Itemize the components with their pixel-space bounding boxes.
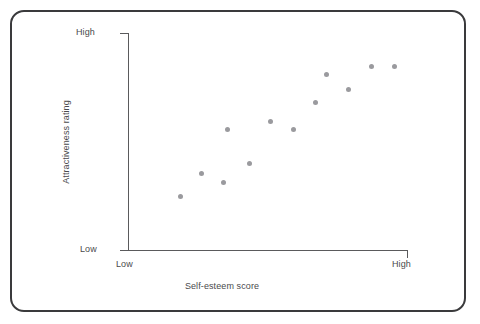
y-axis-low-label: Low [80,244,97,254]
plot-area: High Low Low High Attractiveness rating … [0,0,480,324]
x-axis-high-label: High [392,259,411,269]
scatter-plot-figure: High Low Low High Attractiveness rating … [0,0,480,324]
scatter-point [178,194,183,199]
scatter-point [247,161,252,166]
x-axis-line [128,250,408,251]
y-axis-high-label: High [76,27,95,37]
y-axis-title: Attractiveness rating [61,100,71,184]
y-axis-high-tick [120,33,129,34]
y-axis-line [128,33,129,251]
scatter-point [225,127,230,132]
scatter-point [392,64,397,69]
x-axis-high-tick [407,250,408,258]
scatter-point [291,127,296,132]
scatter-point [199,171,204,176]
scatter-point [268,119,273,124]
scatter-point [346,87,351,92]
scatter-point [324,72,329,77]
scatter-point [221,180,226,185]
x-axis-low-label: Low [116,259,133,269]
scatter-point [313,100,318,105]
y-axis-low-tick [120,250,129,251]
scatter-point [369,64,374,69]
x-axis-title: Self-esteem score [185,281,259,291]
